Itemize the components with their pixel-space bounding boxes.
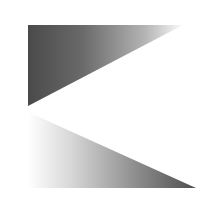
triangles-graphic [0,0,222,201]
upper-triangle [28,25,183,106]
figure-canvas [0,0,222,201]
lower-triangle [28,112,196,188]
